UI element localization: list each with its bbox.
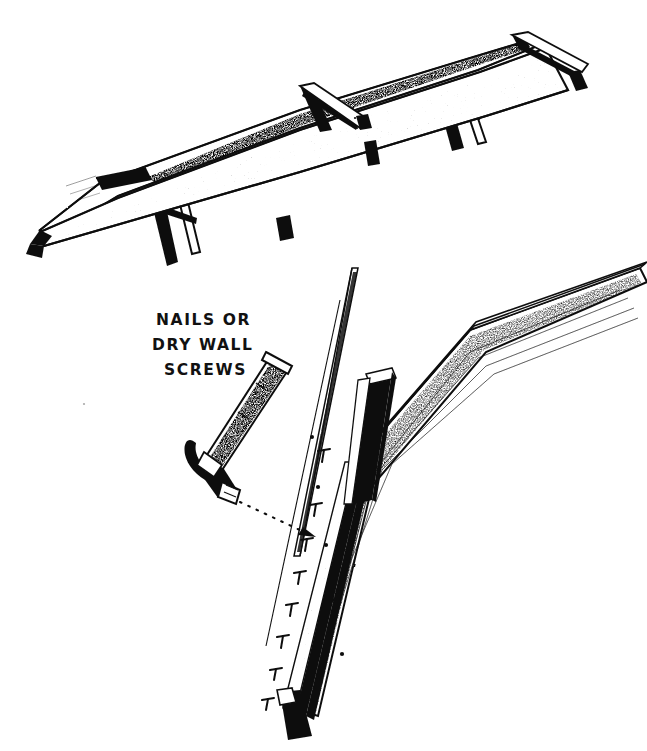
illustration-page: NAILS OR DRY WALL SCREWS (0, 0, 647, 751)
scan-artifact-speck (83, 403, 85, 405)
illustration-canvas (0, 0, 647, 751)
annotation-nails-or-drywall-screws: NAILS OR DRY WALL SCREWS (152, 308, 270, 383)
annotation-line-3: SCREWS (164, 358, 270, 383)
annotation-line-2: DRY WALL (152, 333, 270, 358)
annotation-line-1: NAILS OR (156, 308, 270, 333)
